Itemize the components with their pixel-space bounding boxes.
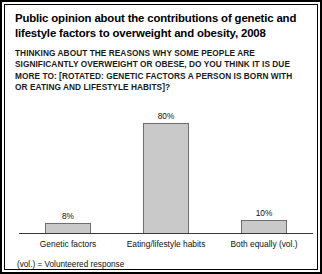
bar-value-label: 8% <box>45 211 91 221</box>
bar-column: 8% <box>45 211 91 234</box>
bar-rect <box>143 123 189 234</box>
page-title: Public opinion about the contributions o… <box>15 11 311 40</box>
poll-chart-card: Public opinion about the contributions o… <box>0 0 322 274</box>
survey-question-text: THINKING ABOUT THE REASONS WHY SOME PEOP… <box>15 48 303 94</box>
bar-column: 80% <box>143 111 189 234</box>
x-axis-tick-label: Eating/lifestyle habits <box>117 238 215 251</box>
bar-value-label: 10% <box>241 208 287 218</box>
x-axis-tick-label: Both equally (vol.) <box>215 238 313 251</box>
x-axis-line <box>19 233 313 234</box>
x-axis-category-labels: Genetic factorsEating/lifestyle habitsBo… <box>19 238 313 252</box>
bar-value-label: 80% <box>143 111 189 121</box>
footnote: (vol.) = Volunteered response <box>17 259 124 270</box>
bar-rect <box>241 220 287 234</box>
bar-group: 8% <box>19 101 117 234</box>
bar-chart-plot-area: 8%80%10% <box>19 101 313 234</box>
bar-column: 10% <box>241 208 287 234</box>
x-axis-tick-label: Genetic factors <box>19 238 117 251</box>
bar-group: 80% <box>117 101 215 234</box>
bar-group: 10% <box>215 101 313 234</box>
card-inner-frame: Public opinion about the contributions o… <box>4 4 318 270</box>
